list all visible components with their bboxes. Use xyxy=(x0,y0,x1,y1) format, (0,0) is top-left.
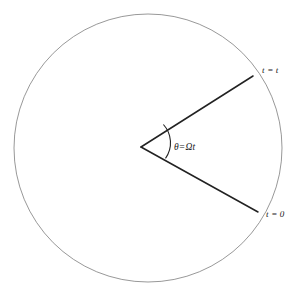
radius-line-t-equals-zero xyxy=(141,147,258,212)
rotating-radius-diagram: t = t t = 0 θ=Ωt xyxy=(0,0,307,296)
label-angle-theta: θ=Ωt xyxy=(174,142,196,152)
circle-outline xyxy=(14,14,282,282)
diagram-canvas: t = t t = 0 θ=Ωt xyxy=(0,0,307,296)
label-t-equals-t: t = t xyxy=(262,65,279,75)
label-t-equals-zero: t = 0 xyxy=(266,209,285,219)
radius-line-t-equals-t xyxy=(141,76,253,147)
